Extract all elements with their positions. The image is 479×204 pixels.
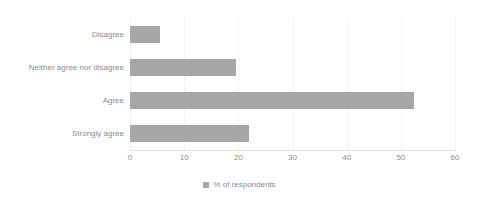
bar-fill <box>130 92 414 109</box>
bar <box>130 125 249 142</box>
x-tick-label: 30 <box>288 153 297 162</box>
category-label: Strongly agree <box>0 125 124 142</box>
category-label: Neither agree nor disagree <box>0 59 124 76</box>
x-tick-label: 10 <box>180 153 189 162</box>
bar-chart: DisagreeNeither agree nor disagreeAgreeS… <box>0 0 479 204</box>
bar <box>130 26 160 43</box>
category-label: Agree <box>0 92 124 109</box>
legend-label: % of respondents <box>213 180 275 189</box>
bar <box>130 92 414 109</box>
bar-fill <box>130 26 160 43</box>
bar <box>130 59 236 76</box>
bar-fill <box>130 125 249 142</box>
category-axis-labels: DisagreeNeither agree nor disagreeAgreeS… <box>0 18 124 150</box>
plot-area <box>130 18 455 150</box>
bar-series <box>130 18 455 150</box>
x-axis-ticks: 0102030405060 <box>130 153 455 167</box>
x-tick-label: 0 <box>128 153 132 162</box>
x-tick-label: 60 <box>451 153 460 162</box>
bar-fill <box>130 59 236 76</box>
legend-swatch-icon <box>203 182 209 188</box>
x-tick-label: 40 <box>342 153 351 162</box>
chart-legend: % of respondents <box>0 180 479 189</box>
x-axis-line <box>130 150 456 151</box>
gridline <box>455 18 456 150</box>
category-label: Disagree <box>0 26 124 43</box>
x-tick-label: 50 <box>396 153 405 162</box>
x-tick-label: 20 <box>234 153 243 162</box>
